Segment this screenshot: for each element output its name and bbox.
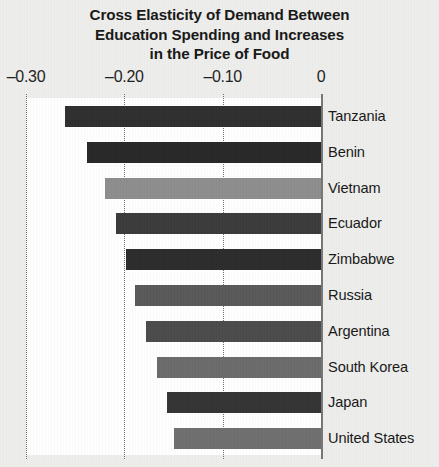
bar-tanzania <box>65 106 321 127</box>
bar-label-vietnam: Vietnam <box>328 178 381 199</box>
x-tick-label-2: –0.10 <box>203 68 242 86</box>
bar-row: Argentina <box>0 321 439 342</box>
bar-japan <box>167 392 321 413</box>
bar-row: South Korea <box>0 357 439 378</box>
bar-row: United States <box>0 428 439 449</box>
x-tick-label-3: 0 <box>317 68 326 86</box>
bar-argentina <box>146 321 321 342</box>
bar-label-tanzania: Tanzania <box>328 106 386 127</box>
chart-title-line-2: Education Spending and Increases <box>0 25 439 45</box>
bar-row: Zimbabwe <box>0 249 439 270</box>
chart-title-line-1: Cross Elasticity of Demand Between <box>0 5 439 25</box>
bar-russia <box>135 285 321 306</box>
x-tick-label-1: –0.20 <box>105 68 144 86</box>
bar-label-russia: Russia <box>328 285 372 306</box>
bar-row: Tanzania <box>0 106 439 127</box>
bar-south-korea <box>157 357 321 378</box>
chart-title-line-3: in the Price of Food <box>0 44 439 64</box>
bar-vietnam <box>105 178 321 199</box>
bar-label-zimbabwe: Zimbabwe <box>328 249 395 270</box>
bar-label-united-states: United States <box>328 428 414 449</box>
bar-zimbabwe <box>126 249 321 270</box>
bar-row: Benin <box>0 142 439 163</box>
bar-benin <box>87 142 321 163</box>
bar-united-states <box>174 428 321 449</box>
x-tick-label-0: –0.30 <box>7 68 46 86</box>
zero-axis-line <box>321 94 323 459</box>
bar-label-japan: Japan <box>328 392 367 413</box>
bar-label-ecuador: Ecuador <box>328 213 382 234</box>
bar-ecuador <box>116 213 321 234</box>
bar-row: Russia <box>0 285 439 306</box>
chart-title: Cross Elasticity of Demand Between Educa… <box>0 5 439 64</box>
bar-row: Vietnam <box>0 178 439 199</box>
bar-row: Ecuador <box>0 213 439 234</box>
bar-label-south-korea: South Korea <box>328 357 408 378</box>
x-axis-tick-labels: –0.30–0.20–0.100 <box>0 68 439 90</box>
chart-container: Cross Elasticity of Demand Between Educa… <box>0 0 439 467</box>
bars-layer: TanzaniaBeninVietnamEcuadorZimbabweRussi… <box>0 98 439 458</box>
bar-label-argentina: Argentina <box>328 321 390 342</box>
bar-label-benin: Benin <box>328 142 365 163</box>
bar-row: Japan <box>0 392 439 413</box>
